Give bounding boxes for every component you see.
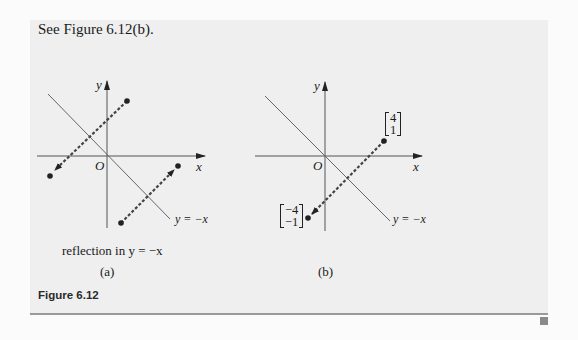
panel-a-x-label: x	[196, 160, 202, 173]
right-bracket	[397, 112, 401, 136]
panel-b-sublabel: (b)	[318, 265, 333, 278]
dashed-arrow-upper	[55, 101, 127, 170]
end-of-example-marker	[540, 317, 548, 325]
vector-reflected-bottom: −1	[285, 216, 298, 228]
panel-a-sublabel: (a)	[100, 265, 114, 278]
reflection-line	[265, 96, 390, 221]
point-reflected	[305, 215, 311, 221]
panel-a-description: reflection in y = −x	[62, 244, 163, 257]
panel-b-line-label: y = −x	[393, 213, 426, 225]
dashed-arrow	[312, 141, 384, 214]
vector-reflected-label: −4 −1	[280, 204, 303, 228]
panel-a-line-label: y = −x	[175, 213, 208, 225]
point-lower-image	[175, 163, 181, 169]
figure-title: Figure 6.12	[38, 289, 99, 301]
point-upper-image	[47, 173, 53, 179]
panel-a-y-label: y	[96, 78, 102, 91]
panel-a-graph	[37, 81, 205, 228]
panel-b-y-label: y	[314, 79, 320, 92]
point-original	[381, 138, 387, 144]
right-bracket	[299, 204, 303, 228]
panel-b-origin-label: O	[313, 159, 322, 172]
panel-b-x-label: x	[413, 160, 419, 173]
vector-original-label: 4 1	[385, 112, 401, 136]
point-lower	[118, 220, 124, 226]
point-upper	[124, 98, 130, 104]
panel-a-origin-label: O	[95, 159, 104, 172]
vector-original-bottom: 1	[390, 124, 396, 136]
